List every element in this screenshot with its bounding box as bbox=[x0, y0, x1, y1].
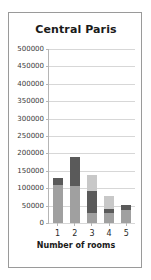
x-axis-tick-mark bbox=[126, 223, 127, 226]
y-axis-tick-label: 350000 bbox=[17, 97, 44, 105]
y-axis-tick-label: 200000 bbox=[17, 149, 44, 157]
stacked-bar[interactable] bbox=[121, 205, 131, 223]
stacked-bar[interactable] bbox=[70, 157, 80, 223]
y-axis-tick-label: 0 bbox=[40, 219, 44, 227]
stacked-bar[interactable] bbox=[104, 196, 114, 223]
y-axis-tick-label: 100000 bbox=[17, 184, 44, 192]
bar-segment-segment-bottom[interactable] bbox=[87, 213, 97, 223]
y-axis-tick-label: 250000 bbox=[17, 132, 44, 140]
bar-group[interactable]: 2 bbox=[66, 49, 83, 223]
x-axis-tick-mark bbox=[57, 223, 58, 226]
bar-group[interactable]: 3 bbox=[83, 49, 100, 223]
y-axis-tick-label: 500000 bbox=[17, 45, 44, 53]
bar-group[interactable]: 4 bbox=[101, 49, 118, 223]
plot-area: 0500001000001500002000002500003000003500… bbox=[48, 49, 135, 224]
bar-group[interactable]: 1 bbox=[49, 49, 66, 223]
bar-segment-segment-bottom[interactable] bbox=[70, 186, 80, 223]
y-axis-tick-label: 400000 bbox=[17, 80, 44, 88]
x-axis-tick-label: 1 bbox=[55, 229, 60, 238]
x-axis-tick-label: 2 bbox=[72, 229, 77, 238]
y-axis-tick-label: 50000 bbox=[22, 202, 44, 210]
x-axis-tick-label: 3 bbox=[89, 229, 94, 238]
y-axis-tick-label: 300000 bbox=[17, 115, 44, 123]
chart-card: Central Paris 05000010000015000020000025… bbox=[8, 12, 142, 268]
x-axis-tick-label: 4 bbox=[107, 229, 112, 238]
bar-series-group: 12345 bbox=[49, 49, 135, 223]
bar-segment-segment-middle[interactable] bbox=[87, 191, 97, 213]
bar-segment-segment-bottom[interactable] bbox=[53, 185, 63, 223]
y-axis-tick-label: 450000 bbox=[17, 62, 44, 70]
bar-segment-segment-top[interactable] bbox=[87, 175, 97, 191]
bar-segment-segment-bottom[interactable] bbox=[121, 210, 131, 223]
stacked-bar[interactable] bbox=[53, 178, 63, 223]
x-axis-tick-label: 5 bbox=[124, 229, 129, 238]
y-axis-tick-label: 150000 bbox=[17, 167, 44, 175]
stacked-bar[interactable] bbox=[87, 175, 97, 223]
y-axis-tick-mark bbox=[46, 223, 49, 224]
bar-segment-segment-top[interactable] bbox=[104, 196, 114, 209]
x-axis-title: Number of rooms bbox=[9, 241, 143, 250]
x-axis-tick-mark bbox=[74, 223, 75, 226]
bar-group[interactable]: 5 bbox=[118, 49, 135, 223]
bar-segment-segment-middle[interactable] bbox=[70, 157, 80, 187]
x-axis-tick-mark bbox=[91, 223, 92, 226]
x-axis-tick-mark bbox=[109, 223, 110, 226]
bar-segment-segment-bottom[interactable] bbox=[104, 213, 114, 223]
chart-title: Central Paris bbox=[9, 23, 143, 36]
bar-segment-segment-middle[interactable] bbox=[53, 178, 63, 185]
